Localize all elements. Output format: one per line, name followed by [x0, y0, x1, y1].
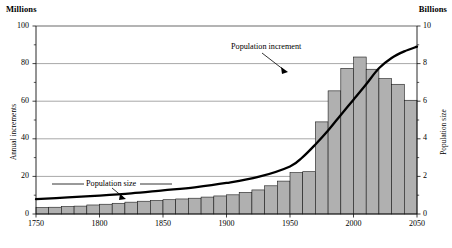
leader-line-increment — [262, 53, 284, 70]
bar — [265, 186, 278, 214]
bar — [112, 203, 125, 214]
bar — [303, 172, 316, 214]
y2-tick-label: 0 — [423, 209, 449, 218]
bar — [61, 206, 74, 214]
bar — [366, 69, 379, 214]
bar — [125, 202, 138, 214]
bar — [290, 173, 303, 214]
x-tick-label: 1850 — [143, 219, 183, 228]
bar — [176, 199, 189, 214]
bar — [74, 206, 87, 214]
bar — [315, 122, 328, 214]
bar — [227, 195, 240, 214]
population-chart-figure: Millions Billions Annual increments Popu… — [0, 0, 452, 248]
bar — [100, 204, 113, 214]
x-tick-label: 1900 — [207, 219, 247, 228]
bar — [87, 205, 100, 214]
y2-tick-label: 6 — [423, 96, 449, 105]
bar — [404, 100, 417, 214]
annotation-population-increment: Population increment — [231, 42, 301, 51]
y-tick-label: 80 — [3, 58, 29, 67]
left-axis-unit-label: Millions — [6, 4, 37, 14]
x-tick-label: 1800 — [80, 219, 120, 228]
y-tick-label: 100 — [3, 21, 29, 30]
bars-group — [36, 57, 417, 214]
x-tick-label: 2000 — [334, 219, 374, 228]
y-tick-label: 60 — [3, 96, 29, 105]
bar — [328, 91, 341, 214]
bar — [354, 57, 367, 214]
y2-tick-label: 2 — [423, 171, 449, 180]
right-axis-unit-label: Billions — [419, 4, 447, 14]
y-tick-label: 20 — [3, 171, 29, 180]
y-tick-label: 40 — [3, 133, 29, 142]
bar — [341, 68, 354, 214]
y2-tick-label: 8 — [423, 58, 449, 67]
bar — [49, 207, 62, 214]
bar — [36, 207, 49, 214]
x-tick-label: 2050 — [397, 219, 437, 228]
bar — [379, 79, 392, 214]
bar — [150, 200, 163, 214]
x-tick-label: 1950 — [270, 219, 310, 228]
y2-tick-label: 4 — [423, 133, 449, 142]
leader-arrow-increment — [281, 67, 288, 74]
bar — [201, 197, 214, 214]
y-tick-label: 0 — [3, 209, 29, 218]
annotation-population-size: Population size — [86, 179, 136, 188]
bar — [392, 84, 405, 214]
chart-plot-area — [0, 0, 452, 248]
bar — [138, 201, 151, 214]
x-tick-label: 1750 — [16, 219, 56, 228]
bar — [214, 196, 227, 214]
bar — [277, 181, 290, 214]
bar — [188, 198, 201, 214]
bar — [163, 200, 176, 214]
bar — [252, 190, 265, 214]
bar — [239, 192, 252, 214]
y2-tick-label: 10 — [423, 21, 449, 30]
